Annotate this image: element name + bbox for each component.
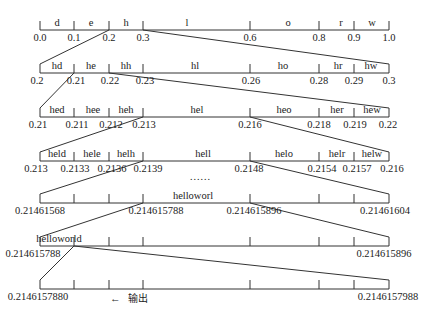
- boundary-value: 0.214615896: [226, 205, 281, 217]
- boundary-value: 0.1: [67, 32, 80, 44]
- boundary-value: 0.3: [382, 75, 395, 87]
- boundary-value: 0.216: [238, 119, 262, 131]
- symbol-label: d: [54, 17, 59, 29]
- boundary-value: 0.2133: [61, 163, 90, 175]
- symbol-label: r: [339, 17, 343, 29]
- symbol-label: helh: [117, 148, 135, 160]
- boundary-value: 0.3: [136, 32, 149, 44]
- boundary-value: 0.214615788: [128, 205, 183, 217]
- boundary-value: 0.23: [136, 75, 154, 87]
- boundary-value: 0.8: [312, 32, 325, 44]
- boundary-value: 0.21461604: [360, 205, 410, 217]
- symbol-label: hr: [334, 60, 343, 72]
- symbol-label: her: [330, 104, 343, 116]
- boundary-value: 1.0: [382, 32, 395, 44]
- symbol-label: w: [368, 17, 376, 29]
- ellipsis: ……: [190, 171, 211, 183]
- symbol-label: hele: [83, 148, 101, 160]
- symbol-label: l: [186, 17, 189, 29]
- boundary-value: 0.216: [380, 163, 404, 175]
- boundary-value: 0.2139: [134, 163, 163, 175]
- zoom-connector: [40, 117, 143, 152]
- symbol-label: h: [123, 17, 128, 29]
- symbol-label: hd: [52, 60, 63, 72]
- symbol-label: he: [86, 60, 96, 72]
- boundary-value: 0.214615896: [356, 248, 411, 260]
- symbol-label: helloworld: [36, 233, 82, 245]
- boundary-value: 0.213: [132, 119, 156, 131]
- boundary-value: 0.2154: [308, 163, 337, 175]
- symbol-label: hew: [363, 104, 381, 116]
- symbol-label: held: [48, 148, 66, 160]
- symbol-label: e: [89, 17, 94, 29]
- boundary-value: 0.21: [67, 75, 85, 87]
- symbol-label: ho: [278, 60, 289, 72]
- boundary-value: 0.213: [24, 163, 48, 175]
- boundary-value: 0.0: [33, 32, 46, 44]
- symbol-label: hl: [191, 60, 199, 72]
- symbol-label: hell: [195, 148, 211, 160]
- boundary-value: 0.28: [310, 75, 328, 87]
- zoom-connector: [40, 161, 143, 194]
- symbol-label: hw: [365, 60, 378, 72]
- symbol-label: hh: [121, 60, 132, 72]
- symbol-label: hel: [191, 104, 204, 116]
- boundary-value: 0.2146157880: [8, 291, 68, 303]
- boundary-value: 0.219: [343, 119, 367, 131]
- boundary-value: 0.211: [65, 119, 88, 131]
- boundary-value: 0.2: [102, 32, 115, 44]
- boundary-value: 0.214615788: [5, 248, 60, 260]
- zoom-connector: [74, 246, 389, 280]
- symbol-label: helw: [362, 148, 382, 160]
- symbol-label: hed: [49, 104, 64, 116]
- boundary-value: 0.2157: [343, 163, 372, 175]
- boundary-value: 0.2: [30, 75, 43, 87]
- symbol-label: helo: [275, 148, 293, 160]
- boundary-value: 0.2146157988: [358, 291, 418, 303]
- boundary-value: 0.29: [345, 75, 363, 87]
- boundary-value: 0.2136: [98, 163, 127, 175]
- boundary-value: 0.218: [307, 119, 331, 131]
- boundary-value: 0.22: [101, 75, 119, 87]
- output-label: 输出: [128, 293, 148, 305]
- output-arrow-icon: ←: [110, 293, 121, 305]
- boundary-value: 0.21461568: [15, 205, 65, 217]
- arithmetic-coding-diagram: dehlorw0.00.10.20.30.60.80.91.0hdhehhhlh…: [0, 0, 428, 316]
- boundary-value: 0.22: [379, 119, 397, 131]
- boundary-value: 0.21: [29, 119, 47, 131]
- boundary-value: 0.212: [99, 119, 123, 131]
- boundary-value: 0.9: [347, 32, 360, 44]
- boundary-value: 0.2148: [235, 163, 264, 175]
- symbol-label: hee: [86, 104, 101, 116]
- symbol-label: o: [285, 17, 290, 29]
- symbol-label: heh: [118, 104, 133, 116]
- symbol-label: helr: [329, 148, 345, 160]
- symbol-label: heo: [276, 104, 291, 116]
- boundary-value: 0.26: [242, 75, 260, 87]
- boundary-value: 0.6: [243, 32, 256, 44]
- symbol-label: helloworl: [173, 190, 213, 202]
